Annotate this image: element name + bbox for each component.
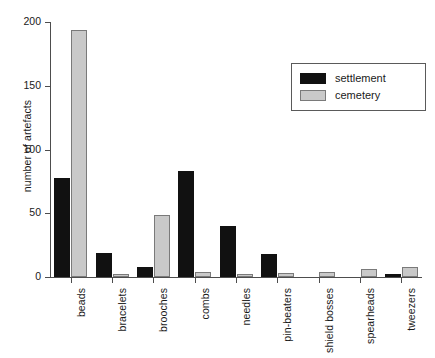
bar-cemetery-combs [195,272,211,277]
y-tick-label: 50 [29,207,41,218]
x-tick-mark [236,277,237,283]
legend-swatch-cemetery-icon [300,90,326,101]
x-tick-label: brooches [157,288,169,332]
bar-cemetery-shield-bosses [319,272,335,277]
legend-label-settlement: settlement [335,73,386,84]
bar-group [261,22,294,277]
bar-settlement-beads [54,178,70,277]
y-tick-label: 200 [23,16,41,27]
bar-group [344,22,377,277]
x-tick-mark [71,277,72,283]
legend-swatch-settlement-icon [300,73,326,84]
legend-item-cemetery: cemetery [300,87,417,104]
x-tick-mark [401,277,402,283]
y-tick-label: 0 [35,271,41,282]
legend-label-cemetery: cemetery [335,90,380,101]
y-tick-mark [45,277,50,278]
bar-group [54,22,87,277]
bar-group [220,22,253,277]
bar-cemetery-beads [71,30,87,277]
bar-group [178,22,211,277]
y-tick-label: 150 [23,80,41,91]
x-tick-mark [112,277,113,283]
x-tick-mark [277,277,278,283]
bar-group [96,22,129,277]
x-tick-mark [319,277,320,283]
x-tick-mark [153,277,154,283]
x-tick-label: combs [199,288,211,319]
y-tick-label: 100 [23,144,41,155]
bar-group [137,22,170,277]
plot-area [50,22,422,277]
bar-cemetery-bracelets [113,274,129,277]
bar-settlement-tweezers [385,274,401,277]
chart-legend: settlement cemetery [291,63,426,111]
bar-settlement-needles [220,226,236,277]
x-tick-mark [195,277,196,283]
x-tick-label: spearheads [364,288,376,344]
bar-settlement-combs [178,171,194,277]
x-tick-label: bracelets [116,288,128,332]
bar-cemetery-pin-beaters [278,273,294,277]
bar-cemetery-spearheads [361,269,377,277]
bar-cemetery-brooches [154,215,170,277]
bar-cemetery-tweezers [402,267,418,277]
bar-cemetery-needles [237,274,253,277]
bar-group [385,22,418,277]
x-tick-label: tweezers [405,288,417,331]
bar-group [302,22,335,277]
x-tick-mark [360,277,361,283]
x-tick-label: shield bosses [323,288,335,353]
bar-chart: number of artefacts 050100150200 beadsbr… [0,0,435,358]
x-tick-label: pin-beaters [281,288,293,342]
bar-settlement-brooches [137,267,153,277]
x-tick-label: needles [240,288,252,325]
x-tick-label: beads [75,288,87,317]
legend-item-settlement: settlement [300,70,417,87]
bar-settlement-pin-beaters [261,254,277,277]
bar-settlement-bracelets [96,253,112,277]
